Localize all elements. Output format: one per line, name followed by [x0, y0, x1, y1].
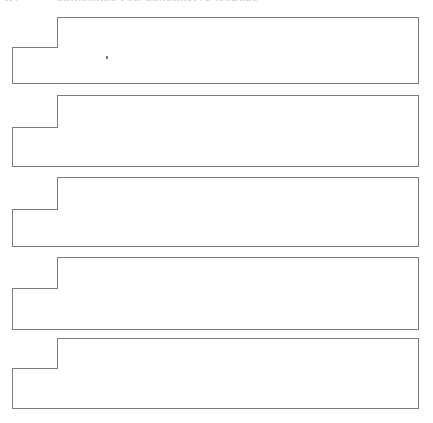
figure-outline-svg [0, 0, 433, 423]
ink-speck-1 [106, 56, 108, 59]
notched-rectangle-2 [13, 96, 419, 167]
figure-outline-svg [0, 0, 433, 423]
notched-rectangle-4 [13, 258, 419, 330]
notched-rectangle-5 [13, 339, 419, 409]
figure-outline-svg [0, 0, 433, 423]
notched-rectangle-1 [13, 18, 419, 84]
figure-outline-svg [0, 0, 433, 423]
figure-outline-svg [0, 0, 433, 423]
notched-rectangle-3 [13, 178, 419, 247]
figure-stack [0, 0, 433, 423]
scanned-page: 114 Grammars for Generative Models [0, 0, 433, 423]
